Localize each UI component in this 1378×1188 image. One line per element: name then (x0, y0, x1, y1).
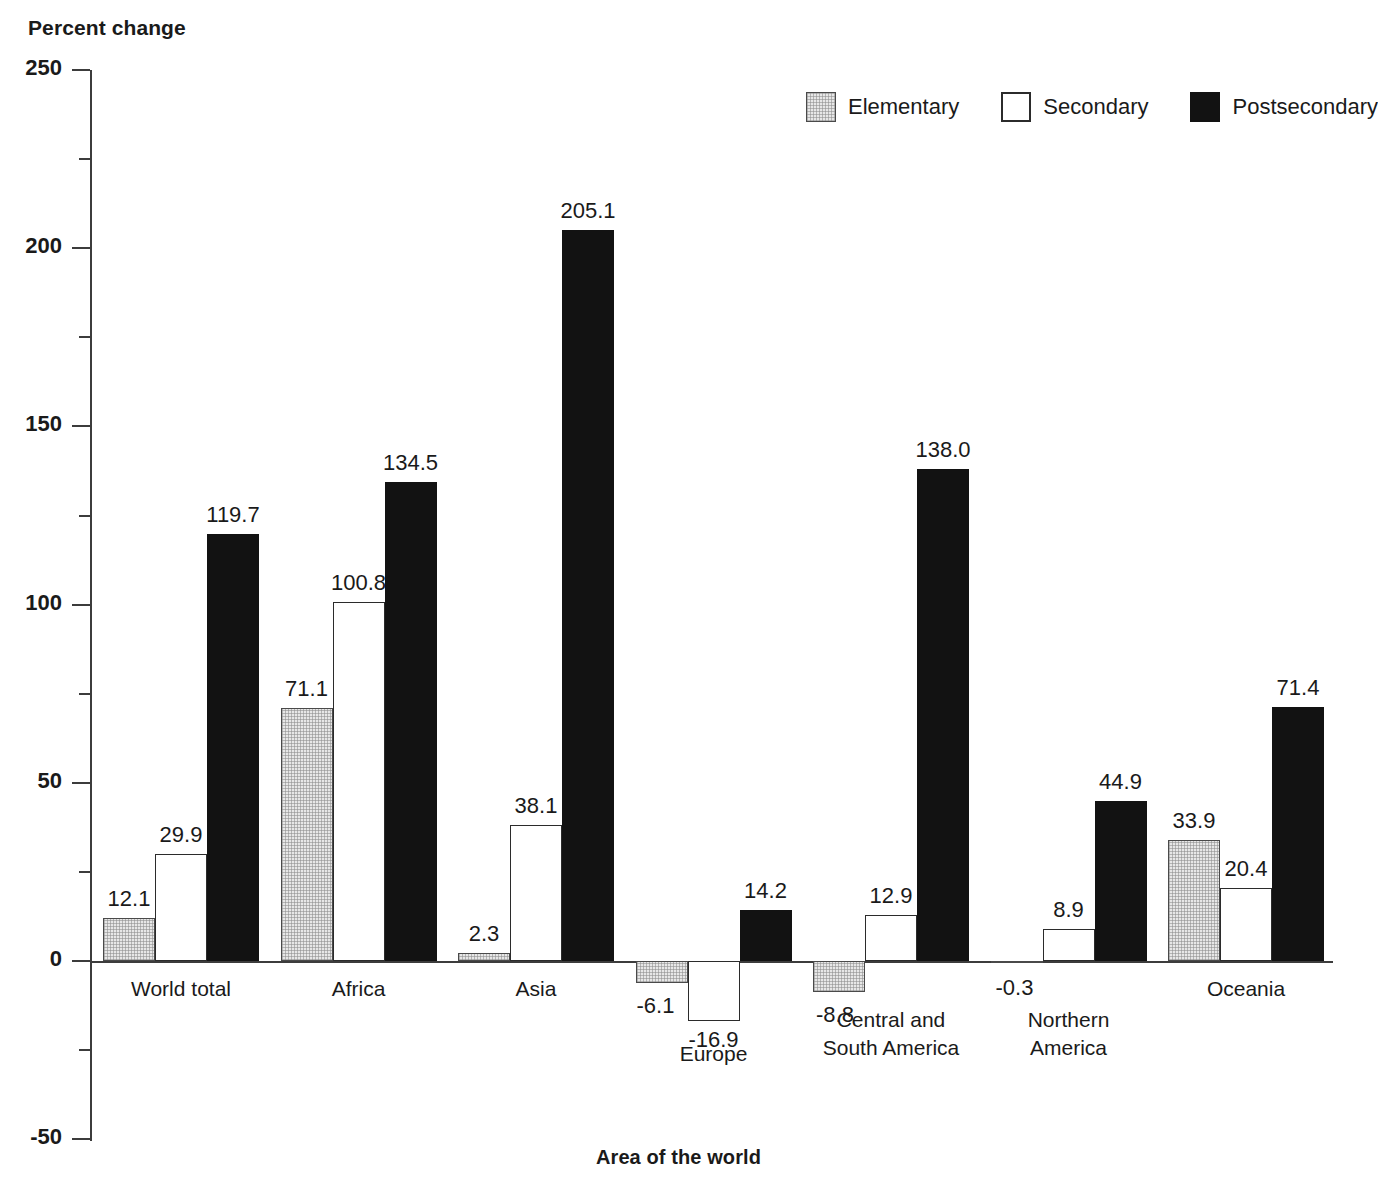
chart-legend: ElementarySecondaryPostsecondary (806, 92, 1378, 122)
bar-postsecondary[interactable] (385, 482, 437, 961)
bar-value-label: -0.3 (950, 975, 1080, 1001)
bar-group: -6.1-16.914.2 (636, 0, 792, 1188)
y-tick-label: 150 (0, 411, 62, 437)
y-tick-minor (79, 158, 90, 160)
y-tick-minor (79, 871, 90, 873)
y-tick-minor (79, 515, 90, 517)
legend-label: Elementary (848, 94, 959, 120)
category-label: NorthernAmerica (949, 1006, 1189, 1061)
bar-secondary[interactable] (333, 602, 385, 961)
bar-value-label: 14.2 (701, 878, 831, 904)
bar-secondary[interactable] (688, 961, 740, 1021)
bar-postsecondary[interactable] (740, 910, 792, 961)
bar-value-label: 44.9 (1056, 769, 1186, 795)
legend-item-postsecondary[interactable]: Postsecondary (1190, 92, 1378, 122)
bar-elementary[interactable] (103, 918, 155, 961)
y-tick-major (72, 69, 90, 71)
bar-postsecondary[interactable] (1272, 707, 1324, 961)
y-tick-major (72, 960, 90, 962)
bar-postsecondary[interactable] (207, 534, 259, 961)
bar-secondary[interactable] (510, 825, 562, 961)
category-label-line: America (949, 1034, 1189, 1062)
bar-group: 12.129.9119.7 (103, 0, 259, 1188)
y-tick-major (72, 247, 90, 249)
bar-group: 71.1100.8134.5 (281, 0, 437, 1188)
y-tick-major (72, 604, 90, 606)
category-label-line: Northern (949, 1006, 1189, 1034)
bar-secondary[interactable] (1220, 888, 1272, 961)
legend-label: Secondary (1043, 94, 1148, 120)
bar-elementary[interactable] (458, 953, 510, 961)
legend-swatch-icon (1190, 92, 1220, 122)
legend-swatch-icon (806, 92, 836, 122)
y-tick-label: 100 (0, 590, 62, 616)
bar-value-label: 119.7 (168, 502, 298, 528)
bar-secondary[interactable] (155, 854, 207, 961)
bar-secondary[interactable] (1043, 929, 1095, 961)
bar-postsecondary[interactable] (917, 469, 969, 961)
bar-postsecondary[interactable] (562, 230, 614, 961)
bar-value-label: 138.0 (878, 437, 1008, 463)
bar-elementary[interactable] (281, 708, 333, 961)
bar-value-label: 33.9 (1129, 808, 1259, 834)
legend-swatch-icon (1001, 92, 1031, 122)
chart-x-axis-title: Area of the world (0, 1146, 1357, 1169)
y-tick-label: 200 (0, 233, 62, 259)
category-label-line: Asia (416, 975, 656, 1003)
y-tick-minor (79, 1049, 90, 1051)
y-tick-major (72, 425, 90, 427)
category-label: Asia (416, 975, 656, 1003)
bar-value-label: 134.5 (346, 450, 476, 476)
legend-label: Postsecondary (1232, 94, 1378, 120)
bar-value-label: 205.1 (523, 198, 653, 224)
category-label: Oceania (1126, 975, 1366, 1003)
legend-item-elementary[interactable]: Elementary (806, 92, 959, 122)
y-tick-minor (79, 336, 90, 338)
bar-elementary[interactable] (991, 961, 1043, 963)
bar-value-label: 71.4 (1233, 675, 1363, 701)
bar-group: 33.920.471.4 (1168, 0, 1324, 1188)
y-tick-major (72, 782, 90, 784)
legend-item-secondary[interactable]: Secondary (1001, 92, 1148, 122)
y-tick-minor (79, 693, 90, 695)
bar-elementary[interactable] (813, 961, 865, 992)
y-tick-label: 50 (0, 768, 62, 794)
y-tick-major (72, 1138, 90, 1140)
y-tick-label: 250 (0, 55, 62, 81)
bar-secondary[interactable] (865, 915, 917, 961)
y-tick-label: 0 (0, 946, 62, 972)
category-label-line: Oceania (1126, 975, 1366, 1003)
